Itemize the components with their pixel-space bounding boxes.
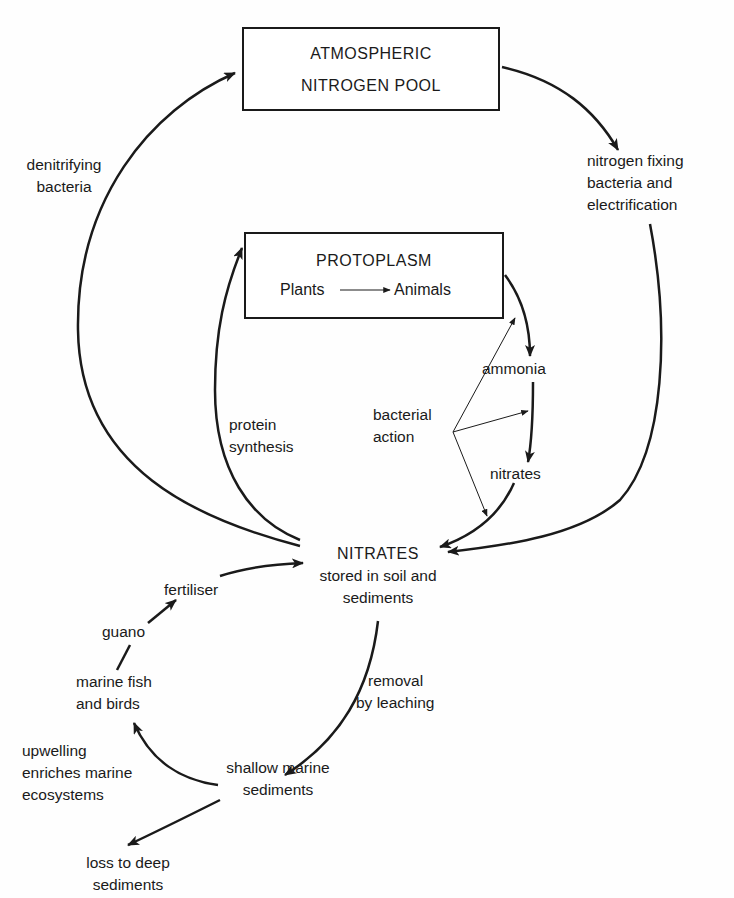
line-fish-to-guano [117,645,130,670]
bacterial-action-label: bacterial action [373,404,432,448]
nitrates-main-node: NITRATES stored in soil and sediments [290,543,466,609]
arrow-ammonia-to-nitrates [528,382,533,462]
upwelling-line2: enriches marine [22,762,132,784]
loss-line2: sediments [66,874,190,896]
nitrogen-cycle-diagram: ATMOSPHERIC NITROGEN POOL PROTOPLASM Pla… [0,0,734,898]
bacterial-line1: bacterial [373,404,432,426]
protein-line1: protein [229,414,294,436]
arrow-atmos-to-fixing [502,67,618,150]
fixing-line3: electrification [587,194,684,216]
plants-to-animals-arrow [246,234,506,321]
shallow-line2: sediments [204,779,352,801]
atmospheric-line2: NITROGEN POOL [244,75,498,97]
loss-deep-sediments-label: loss to deep sediments [66,852,190,896]
nitrates-main-title: NITRATES [290,543,466,565]
animals-label: Animals [394,279,451,301]
denitrifying-line1: denitrifying [14,154,114,176]
arrow-bacterial-3 [453,432,487,516]
ammonia-label: ammonia [482,358,546,380]
shallow-line1: shallow marine [204,757,352,779]
arrow-guano-to-fertiliser [148,600,176,623]
atmospheric-nitrogen-pool-box: ATMOSPHERIC NITROGEN POOL [242,27,500,111]
arrow-protoplasm-to-ammonia [505,275,530,356]
shallow-marine-sediments-label: shallow marine sediments [204,757,352,801]
nitrates-small-label: nitrates [490,463,541,485]
bacterial-line2: action [373,426,432,448]
fertiliser-label: fertiliser [164,579,218,601]
loss-line1: loss to deep [66,852,190,874]
nitrates-main-line1: stored in soil and [290,565,466,587]
upwelling-line1: upwelling [22,740,132,762]
protoplasm-box: PROTOPLASM Plants Animals [244,232,504,319]
protein-synthesis-label: protein synthesis [229,414,294,458]
marine-fish-birds-label: marine fish and birds [76,671,152,715]
protein-line2: synthesis [229,436,294,458]
guano-label: guano [102,621,145,643]
leaching-line2: by leaching [356,692,434,714]
fixing-label: nitrogen fixing bacteria and electrifica… [587,150,684,216]
leaching-line1: removal [356,670,434,692]
upwelling-line3: ecosystems [22,784,132,806]
removal-leaching-label: removal by leaching [356,670,434,714]
denitrifying-label: denitrifying bacteria [14,154,114,198]
arrow-loss-to-deep [128,800,220,845]
fixing-line1: nitrogen fixing [587,150,684,172]
upwelling-label: upwelling enriches marine ecosystems [22,740,132,806]
arrow-bacterial-2 [453,411,528,432]
denitrifying-line2: bacteria [14,176,114,198]
fixing-line2: bacteria and [587,172,684,194]
fish-line2: and birds [76,693,152,715]
atmospheric-line1: ATMOSPHERIC [244,43,498,65]
nitrates-main-line2: sediments [290,587,466,609]
fish-line1: marine fish [76,671,152,693]
